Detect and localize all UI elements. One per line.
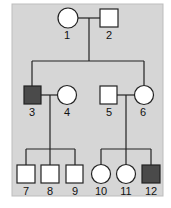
individual-8-male — [41, 165, 59, 183]
label-6: 6 — [140, 106, 146, 118]
label-2: 2 — [106, 29, 112, 41]
individual-2-male — [100, 9, 118, 27]
individual-4-female — [58, 86, 77, 105]
label-3: 3 — [29, 106, 35, 118]
individual-7-male — [17, 165, 35, 183]
label-7: 7 — [23, 185, 29, 197]
individual-6-female — [135, 86, 154, 105]
individual-10-female — [92, 165, 111, 184]
individual-11-female — [117, 165, 136, 184]
label-10: 10 — [95, 185, 107, 197]
individual-5-male — [100, 86, 117, 104]
individual-1-female — [58, 8, 78, 28]
label-12: 12 — [145, 185, 157, 197]
label-11: 11 — [120, 185, 131, 197]
label-5: 5 — [106, 106, 112, 118]
individual-9-male — [66, 165, 83, 183]
individual-12-male-affected — [142, 165, 160, 183]
label-8: 8 — [47, 185, 53, 197]
label-4: 4 — [64, 106, 70, 118]
label-9: 9 — [72, 185, 78, 197]
label-1: 1 — [64, 29, 70, 41]
individual-3-male-affected — [24, 86, 41, 104]
pedigree-chart: 1 2 3 4 5 6 7 8 9 10 11 12 — [0, 0, 171, 208]
